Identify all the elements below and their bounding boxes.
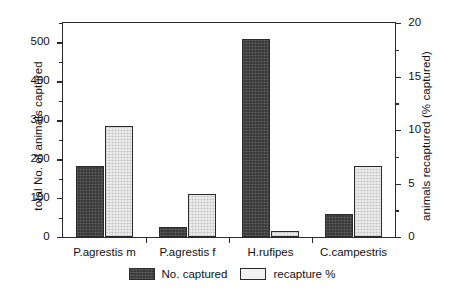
y-ticklabel-left: 200 <box>31 153 50 165</box>
bar-recapture <box>188 194 216 237</box>
chart-figure: total No. of animals captured animals re… <box>0 0 464 298</box>
bar-recapture <box>271 231 299 237</box>
bar-captured <box>159 227 187 237</box>
y-ticklabel-left: 0 <box>43 231 49 243</box>
x-tick <box>229 237 230 243</box>
x-tick <box>146 237 147 243</box>
legend-label-recapture: recapture % <box>273 268 335 280</box>
y-ticklabel-right: 10 <box>408 124 421 136</box>
bar-recapture <box>354 166 382 237</box>
y-axis-right-title: animals recaptured (% captured) <box>420 28 432 244</box>
y-tick-left <box>57 42 63 43</box>
y-ticklabel-left: 500 <box>31 37 50 49</box>
legend-label-captured: No. captured <box>162 268 228 280</box>
y-ticklabel-left: 300 <box>31 115 50 127</box>
y-minortick-left <box>59 218 63 219</box>
chart-legend: No. captured recapture % <box>0 268 464 280</box>
legend-item-recapture: recapture % <box>240 268 335 280</box>
x-tick <box>312 237 313 243</box>
y-ticklabel-right: 20 <box>408 17 421 29</box>
y-tick-left <box>57 81 63 82</box>
bar-captured <box>76 166 104 237</box>
y-tick-right <box>395 237 401 238</box>
legend-item-captured: No. captured <box>129 268 228 280</box>
y-axis-left-title: total No. of animals captured <box>32 28 44 244</box>
y-ticklabel-left: 100 <box>31 192 50 204</box>
y-tick-left <box>57 237 63 238</box>
y-tick-left <box>57 120 63 121</box>
x-ticklabel: P.agrestis m <box>73 246 135 258</box>
y-minortick-left <box>59 62 63 63</box>
y-tick-right <box>395 77 401 78</box>
y-minortick-right <box>395 103 399 104</box>
y-ticklabel-right: 5 <box>408 178 414 190</box>
x-ticklabel: C.campestris <box>320 246 387 258</box>
plot-area: 0100200300400500 05101520 P.agrestis mP.… <box>62 22 396 238</box>
legend-swatch-captured <box>129 268 155 280</box>
bar-captured <box>242 39 270 237</box>
y-ticklabel-right: 15 <box>408 71 421 83</box>
y-tick-left <box>57 159 63 160</box>
y-minortick-right <box>395 157 399 158</box>
legend-swatch-recapture <box>240 268 266 280</box>
x-ticklabel: P.agrestis f <box>159 246 215 258</box>
y-tick-right <box>395 184 401 185</box>
y-minortick-left <box>59 140 63 141</box>
y-tick-left <box>57 198 63 199</box>
y-tick-right <box>395 23 401 24</box>
x-ticklabel: H.rufipes <box>247 246 293 258</box>
y-tick-right <box>395 130 401 131</box>
y-minortick-left <box>59 23 63 24</box>
y-minortick-right <box>395 210 399 211</box>
y-minortick-left <box>59 179 63 180</box>
y-ticklabel-right: 0 <box>408 231 414 243</box>
y-minortick-right <box>395 50 399 51</box>
y-minortick-left <box>59 101 63 102</box>
y-ticklabel-left: 400 <box>31 76 50 88</box>
bar-recapture <box>105 126 133 237</box>
bar-captured <box>325 214 353 237</box>
